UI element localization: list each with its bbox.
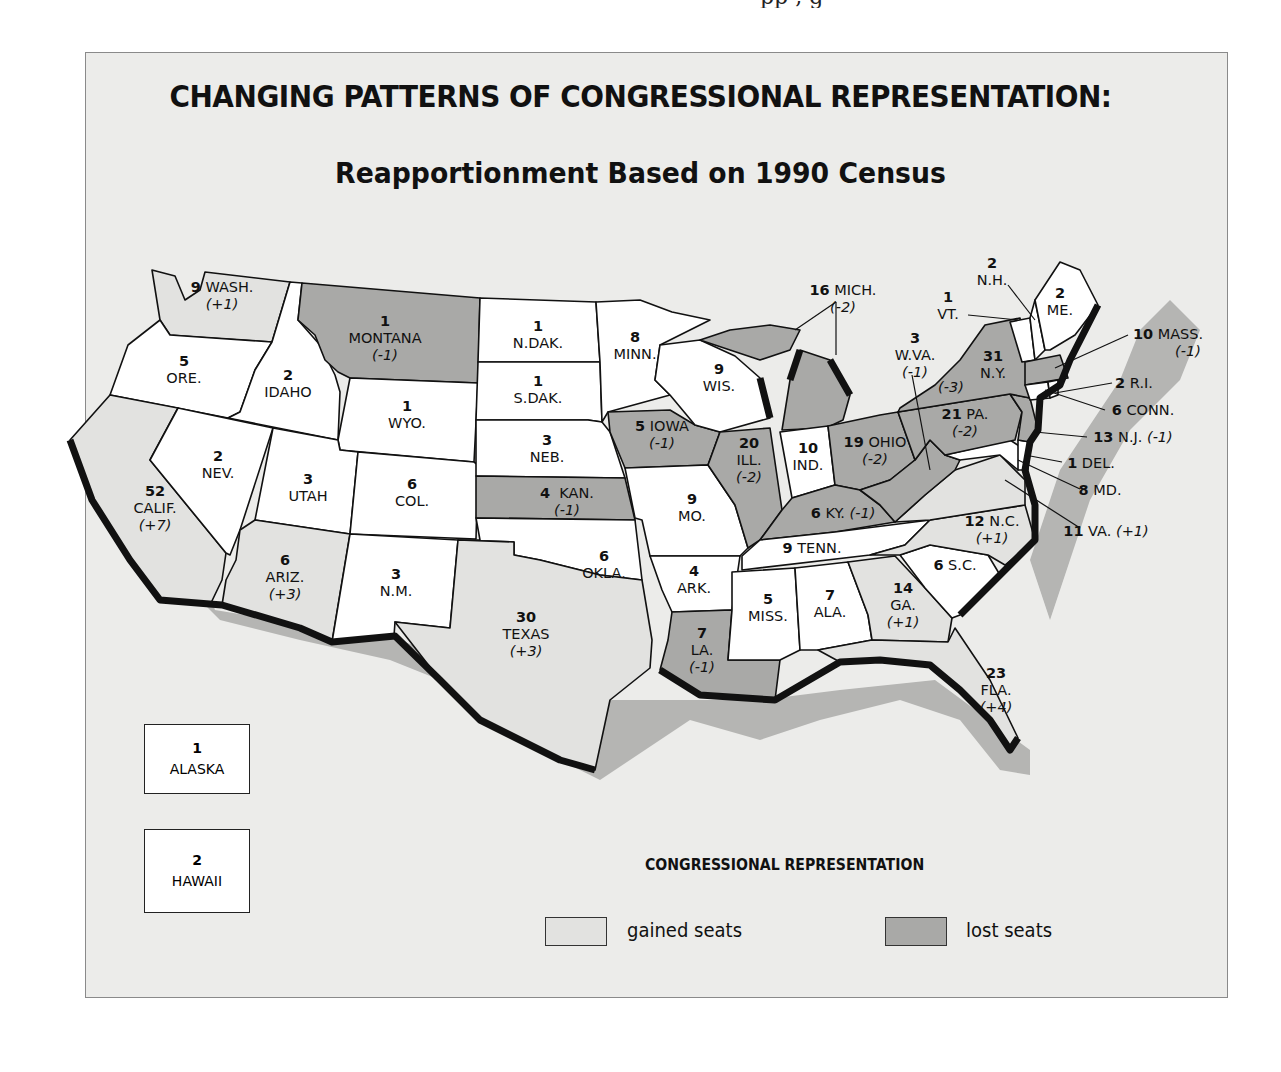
- label-ore: 5ORE.: [166, 353, 201, 387]
- label-col: 6COL.: [395, 476, 429, 510]
- label-tenn: 9 TENN.: [782, 540, 841, 557]
- hawaii-name: HAWAII: [145, 871, 249, 892]
- label-calif: 52CALIF.(+7): [133, 483, 176, 534]
- label-me: 2ME.: [1047, 285, 1073, 319]
- label-wyo: 1WYO.: [388, 398, 426, 432]
- legend-title: CONGRESSIONAL REPRESENTATION: [645, 855, 924, 874]
- label-vt: 1VT.: [937, 289, 959, 323]
- label-ohio: 19 OHIO(-2): [844, 434, 907, 468]
- label-ill: 20ILL.(-2): [736, 435, 762, 486]
- label-utah: 3UTAH: [288, 471, 327, 505]
- label-ariz: 6ARIZ.(+3): [266, 552, 305, 603]
- label-la: 7LA.(-1): [689, 625, 715, 676]
- label-nc: 12 N.C.(+1): [965, 513, 1020, 547]
- label-sdak: 1S.DAK.: [514, 373, 563, 407]
- label-fla: 23FLA.(+4): [980, 665, 1013, 716]
- hawaii-seats: 2: [145, 850, 249, 871]
- label-ny-change: (-3): [938, 379, 964, 396]
- label-ny: 31N.Y.: [980, 348, 1006, 382]
- label-texas: 30TEXAS(+3): [502, 609, 549, 660]
- label-ala: 7ALA.: [814, 587, 847, 621]
- label-wva: 3W.VA.(-1): [895, 330, 936, 381]
- label-ga: 14GA.(+1): [887, 580, 920, 631]
- label-md: 8 MD.: [1079, 482, 1122, 499]
- label-nev: 2NEV.: [202, 448, 235, 482]
- label-mo: 9MO.: [678, 491, 706, 525]
- label-sc: 6 S.C.: [933, 557, 976, 574]
- label-pa: 21 PA.(-2): [942, 406, 989, 440]
- label-wash: 9 WASH.(+1): [191, 279, 254, 313]
- label-wis: 9WIS.: [703, 361, 735, 395]
- label-va: 11 VA. (+1): [1063, 523, 1148, 540]
- alaska-seats: 1: [145, 738, 249, 759]
- label-nj: 13 N.J. (-1): [1093, 429, 1173, 446]
- label-del: 1 DEL.: [1067, 455, 1115, 472]
- label-ind: 10IND.: [793, 440, 824, 474]
- legend-label-gained: gained seats: [627, 918, 742, 942]
- label-ark: 4ARK.: [677, 563, 711, 597]
- inset-hawaii: 2 HAWAII: [144, 829, 250, 913]
- alaska-name: ALASKA: [145, 759, 249, 780]
- legend-swatch-lost: [885, 917, 947, 946]
- label-neb: 3NEB.: [530, 432, 565, 466]
- label-ky: 6 KY. (-1): [811, 505, 876, 522]
- label-conn: 6 CONN.: [1112, 402, 1175, 419]
- label-kan: 4 KAN.(-1): [540, 485, 594, 519]
- label-iowa: 5 IOWA(-1): [635, 418, 689, 452]
- label-nm: 3N.M.: [380, 566, 413, 600]
- label-mich: 16 MICH.(-2): [810, 282, 877, 316]
- label-mass: 10 MASS.(-1): [1133, 326, 1203, 360]
- legend-swatch-gained: [545, 917, 607, 946]
- label-okla: 6OKLA.: [582, 548, 626, 582]
- inset-alaska: 1 ALASKA: [144, 724, 250, 794]
- legend-label-lost: lost seats: [966, 918, 1052, 942]
- label-idaho: 2IDAHO: [264, 367, 311, 401]
- label-ri: 2 R.I.: [1115, 375, 1153, 392]
- label-minn: 8MINN.: [613, 329, 656, 363]
- label-montana: 1MONTANA(-1): [348, 313, 421, 364]
- label-ndak: 1N.DAK.: [513, 318, 563, 352]
- label-miss: 5MISS.: [748, 591, 788, 625]
- label-nh: 2N.H.: [977, 255, 1008, 289]
